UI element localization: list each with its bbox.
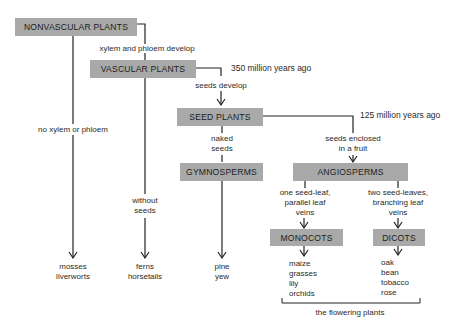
edge-label-line: veins — [270, 208, 340, 218]
node-monocots: MONOCOTS — [270, 229, 343, 246]
edge-label-seeds-enclosed: seeds enclosed in a fruit — [318, 134, 388, 154]
node-vascular-plants: VASCULAR PLANTS — [90, 60, 196, 78]
node-nonvascular-plants: NONVASCULAR PLANTS — [15, 18, 137, 36]
examples-nonvascular: mosses liverworts — [48, 262, 98, 282]
node-seed-plants: SEED PLANTS — [177, 108, 263, 126]
edge-label-line: branching leaf — [360, 198, 436, 208]
edge-label-no-xylem-phloem: no xylem or phloem — [28, 125, 118, 135]
edge-label-without-seeds: without seeds — [125, 196, 165, 216]
examples-gymnosperms: pine yew — [202, 262, 242, 282]
examples-ferns: ferns horsetails — [120, 262, 170, 282]
edge-label-xylem-phloem-develop: xylem and phloem develop — [92, 44, 202, 54]
examples-monocots: maize grasses lily orchids — [289, 259, 317, 299]
flowering-plants-label: the flowering plants — [300, 308, 400, 318]
example-item: oak — [381, 258, 409, 268]
edge-label-line: naked — [202, 134, 242, 144]
edge-label-monocot-traits: one seed-leaf, parallel leaf veins — [270, 188, 340, 218]
edge-label-line: veins — [360, 208, 436, 218]
example-item: bean — [381, 268, 409, 278]
edge-label-seeds-develop: seeds develop — [186, 81, 256, 91]
example-item: rose — [381, 288, 409, 298]
time-label-125-mya: 125 million years ago — [360, 110, 440, 120]
edge-label-line: seeds enclosed — [318, 134, 388, 144]
example-item: pine — [202, 262, 242, 272]
edge-label-line: seeds — [202, 144, 242, 154]
node-angiosperms: ANGIOSPERMS — [293, 163, 408, 181]
example-item: ferns — [120, 262, 170, 272]
examples-dicots: oak bean tobacco rose — [381, 258, 409, 298]
edge-label-line: two seed-leaves, — [360, 188, 436, 198]
edge-label-dicot-traits: two seed-leaves, branching leaf veins — [360, 188, 436, 218]
edge-label-line: without — [125, 196, 165, 206]
example-item: lily — [289, 279, 317, 289]
example-item: mosses — [48, 262, 98, 272]
example-item: tobacco — [381, 278, 409, 288]
example-item: liverworts — [48, 272, 98, 282]
example-item: maize — [289, 259, 317, 269]
example-item: yew — [202, 272, 242, 282]
edge-label-line: in a fruit — [318, 144, 388, 154]
edge-label-naked-seeds: naked seeds — [202, 134, 242, 154]
node-dicots: DICOTS — [373, 229, 425, 246]
node-gymnosperms: GYMNOSPERMS — [180, 163, 263, 181]
example-item: orchids — [289, 289, 317, 299]
example-item: horsetails — [120, 272, 170, 282]
edge-label-line: one seed-leaf, — [270, 188, 340, 198]
example-item: grasses — [289, 269, 317, 279]
edge-label-line: parallel leaf — [270, 198, 340, 208]
time-label-350-mya: 350 million years ago — [231, 63, 311, 73]
edge-label-line: seeds — [125, 206, 165, 216]
